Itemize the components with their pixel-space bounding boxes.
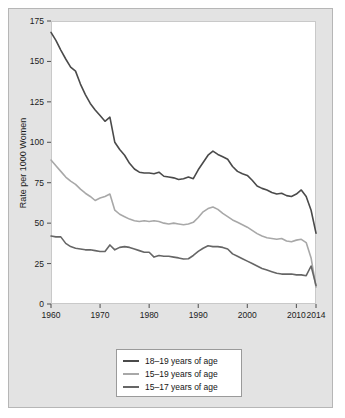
y-tick-label: 50 [35, 218, 45, 228]
legend-item[interactable]: 15–19 years of age [117, 367, 241, 380]
x-tick-label: 1970 [91, 310, 110, 320]
legend-swatch-15-19 [123, 373, 139, 375]
y-tick-label: 175 [30, 16, 44, 26]
x-axis-tick-labels: 1960197019801990200020102014 [42, 310, 326, 320]
x-tick-label: 1990 [189, 310, 208, 320]
y-axis-title: Rate per 1000 Women [18, 118, 28, 208]
data-series-group [51, 32, 316, 287]
y-tick-label: 150 [30, 56, 44, 66]
x-axis-ticks [51, 304, 316, 308]
legend-label: 15–17 years of age [145, 382, 218, 392]
series-line [51, 236, 316, 285]
y-tick-label: 0 [39, 299, 44, 309]
legend-item[interactable]: 18–19 years of age [117, 354, 241, 367]
x-tick-label: 2000 [238, 310, 257, 320]
figure-container: 0255075100125150175 19601970198019902000… [0, 0, 345, 418]
series-line [51, 32, 316, 233]
legend-swatch-18-19 [123, 360, 139, 362]
chart-legend: 18–19 years of age 15–19 years of age 15… [116, 349, 242, 397]
y-tick-label: 125 [30, 97, 44, 107]
x-tick-label: 1980 [140, 310, 159, 320]
x-tick-label: 2014 [307, 310, 326, 320]
y-axis-ticks [47, 21, 51, 304]
x-tick-label: 1960 [42, 310, 61, 320]
y-tick-label: 75 [35, 178, 45, 188]
x-tick-label: 2010 [287, 310, 306, 320]
legend-label: 18–19 years of age [145, 356, 218, 366]
y-axis-tick-labels: 0255075100125150175 [30, 16, 44, 309]
legend-item[interactable]: 15–17 years of age [117, 380, 241, 393]
y-tick-label: 100 [30, 137, 44, 147]
legend-label: 15–19 years of age [145, 369, 218, 379]
legend-swatch-15-17 [123, 386, 139, 388]
y-tick-label: 25 [35, 259, 45, 269]
